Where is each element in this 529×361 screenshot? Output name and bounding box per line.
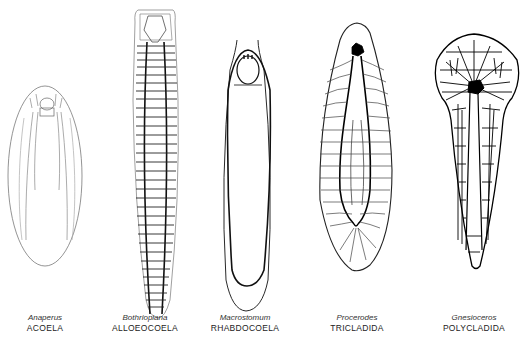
flatworm-figure: Anaperus ACOELA Bothrioplana ALLOEOCOELA…	[0, 0, 529, 361]
bothrioplana-drawing	[133, 10, 178, 318]
flatworm-illustrations	[0, 0, 529, 361]
procerodes-drawing	[320, 23, 392, 271]
genus-name: Gnesioceros	[419, 313, 529, 323]
genus-name: Anaperus	[0, 313, 100, 323]
specimen-label-macrostomum: Macrostomum RHABDOCOELA	[190, 313, 300, 334]
specimen-label-procerodes: Procerodes TRICLADIDA	[302, 313, 412, 334]
specimen-label-bothrioplana: Bothrioplana ALLOEOCOELA	[90, 313, 200, 334]
order-name: ALLOEOCOELA	[90, 323, 200, 334]
order-name: ACOELA	[0, 323, 100, 334]
anaperus-drawing	[8, 86, 82, 266]
macrostomum-drawing	[224, 40, 271, 311]
specimen-label-anaperus: Anaperus ACOELA	[0, 313, 100, 334]
genus-name: Bothrioplana	[90, 313, 200, 323]
order-name: TRICLADIDA	[302, 323, 412, 334]
gnesioceros-drawing	[435, 34, 518, 269]
order-name: POLYCLADIDA	[419, 323, 529, 334]
genus-name: Macrostomum	[190, 313, 300, 323]
genus-name: Procerodes	[302, 313, 412, 323]
order-name: RHABDOCOELA	[190, 323, 300, 334]
specimen-label-gnesioceros: Gnesioceros POLYCLADIDA	[419, 313, 529, 334]
